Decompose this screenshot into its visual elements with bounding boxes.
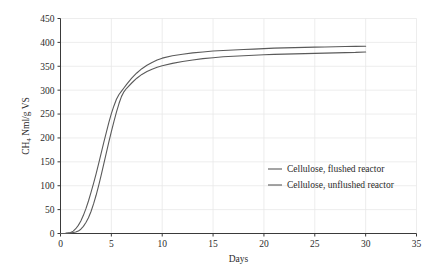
x-tick-label: 25: [310, 239, 320, 249]
x-tick-label: 35: [412, 239, 422, 249]
y-tick-label: 50: [45, 205, 55, 215]
y-tick-label: 450: [40, 14, 55, 24]
x-tick-label: 10: [157, 239, 167, 249]
y-tick-label: 0: [50, 229, 55, 239]
y-tick-label: 350: [40, 62, 55, 72]
chart-legend: Cellulose, flushed reactorCellulose, unf…: [268, 164, 395, 190]
line-chart: 0501001502002503003504004500510152025303…: [0, 0, 442, 274]
chart-figure: 0501001502002503003504004500510152025303…: [0, 0, 442, 274]
y-tick-label: 400: [40, 38, 55, 48]
x-tick-label: 5: [109, 239, 114, 249]
axis-spines: [61, 19, 417, 234]
y-tick-label: 200: [40, 133, 55, 143]
y-tick-label: 250: [40, 109, 55, 119]
y-tick-label: 150: [40, 157, 55, 167]
gridlines: [61, 19, 417, 234]
x-tick-label: 20: [259, 239, 269, 249]
legend-label-0: Cellulose, flushed reactor: [287, 164, 385, 174]
axis-tick-labels: 0501001502002503003504004500510152025303…: [40, 14, 421, 249]
x-tick-label: 15: [208, 239, 218, 249]
x-tick-label: 0: [58, 239, 63, 249]
x-tick-label: 30: [361, 239, 371, 249]
legend-label-1: Cellulose, unflushed reactor: [287, 180, 395, 190]
y-axis-title: CH4 Nml/g VS: [21, 97, 33, 155]
x-axis-title: Days: [229, 254, 249, 264]
y-tick-label: 100: [40, 181, 55, 191]
y-tick-label: 300: [40, 86, 55, 96]
